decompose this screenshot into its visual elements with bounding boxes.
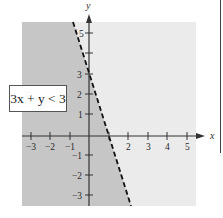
inequality-label: 3x + y < 3 bbox=[9, 85, 67, 112]
svg-text:−3: −3 bbox=[72, 191, 82, 201]
svg-text:1: 1 bbox=[78, 110, 83, 120]
inequality-text: 3x + y < 3 bbox=[10, 91, 66, 107]
svg-text:2: 2 bbox=[126, 142, 131, 152]
page-divider bbox=[220, 0, 221, 153]
svg-text:−1: −1 bbox=[72, 151, 82, 161]
svg-text:2: 2 bbox=[77, 90, 82, 100]
svg-text:3: 3 bbox=[146, 142, 151, 152]
svg-text:−3: −3 bbox=[26, 142, 36, 152]
svg-text:5: 5 bbox=[185, 142, 190, 152]
svg-text:−2: −2 bbox=[72, 171, 82, 181]
y-axis-label: y bbox=[85, 0, 91, 11]
svg-text:3: 3 bbox=[77, 70, 82, 80]
svg-text:4: 4 bbox=[165, 142, 170, 152]
y-axis-arrow-icon bbox=[86, 14, 92, 23]
svg-text:−2: −2 bbox=[45, 142, 55, 152]
svg-text:5: 5 bbox=[79, 29, 84, 39]
x-axis-arrow-icon bbox=[196, 133, 205, 139]
x-axis-label: x bbox=[209, 130, 215, 141]
